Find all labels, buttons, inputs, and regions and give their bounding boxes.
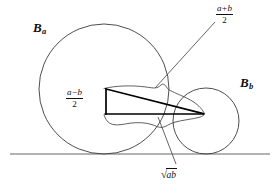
label-arithmetic-mean: a+b 2 [216, 4, 233, 26]
label-set-b-a-subscript: a [42, 26, 46, 36]
half-difference-term-b: b [78, 87, 83, 97]
label-set-b-b: Bb [240, 76, 253, 91]
arithmetic-mean-term-a: a [217, 3, 222, 13]
label-half-difference: a−b 2 [66, 88, 83, 110]
arithmetic-mean-leader-line [155, 22, 215, 88]
circle-b-b [173, 88, 239, 154]
arithmetic-mean-numerator: a+b [216, 4, 233, 14]
half-difference-term-a: a [67, 87, 72, 97]
label-geometric-mean: √ab [161, 168, 177, 180]
label-set-b-a-base: B [33, 20, 42, 35]
geometry-figure: Ba Bb a+b 2 a−b 2 √ab [0, 0, 278, 195]
geometric-mean-radicand: ab [166, 168, 177, 180]
wedge-outline-lower [104, 114, 205, 127]
label-set-b-b-subscript: b [249, 81, 253, 91]
arithmetic-mean-term-b: b [228, 3, 233, 13]
circle-b-a [39, 24, 169, 154]
half-difference-numerator: a−b [66, 88, 83, 98]
label-set-b-a: Ba [33, 21, 46, 36]
arithmetic-mean-denominator: 2 [216, 16, 233, 26]
label-set-b-b-base: B [240, 75, 249, 90]
half-difference-denominator: 2 [66, 100, 83, 110]
